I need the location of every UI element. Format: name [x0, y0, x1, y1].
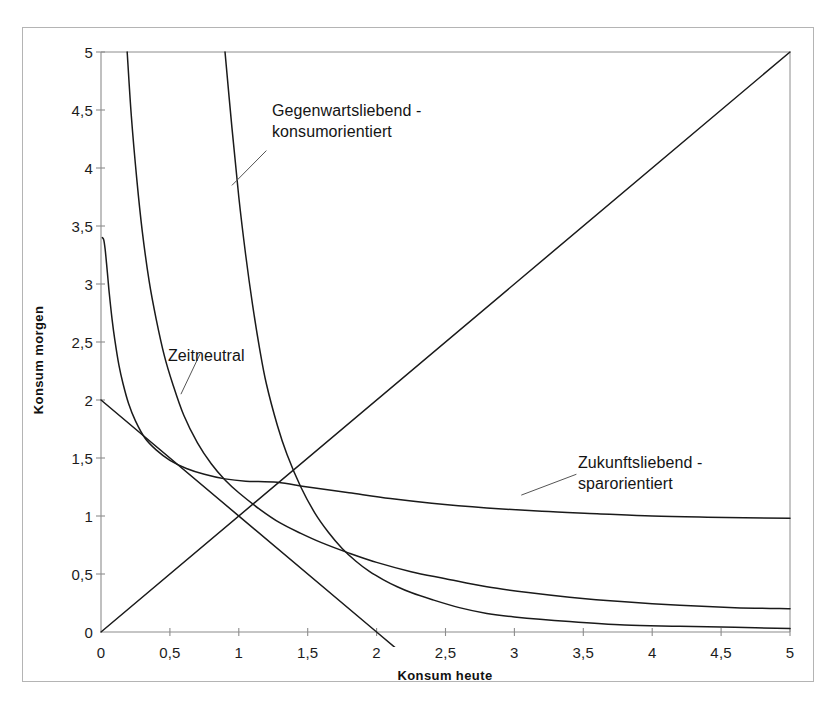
y-tick-label: 4,5: [71, 102, 93, 119]
annotation-zukunftsliebend: Zukunftsliebend - sparorientiert: [578, 452, 702, 494]
y-tick-label: 4: [71, 160, 93, 177]
annotation-gegenwartsliebend-line2: konsumorientiert: [272, 121, 422, 142]
y-tick-label: 2,5: [71, 334, 93, 351]
x-tick-label: 1: [235, 644, 244, 661]
y-tick-label: 1,5: [71, 450, 93, 467]
x-tick-label: 5: [786, 644, 795, 661]
annotation-zeitneutral: Zeitneutral: [168, 345, 245, 366]
y-axis-title: Konsum morgen: [31, 306, 46, 414]
x-tick-label: 1,5: [297, 644, 318, 661]
x-tick-label: 0: [97, 644, 106, 661]
annotation-zukunftsliebend-line2: sparorientiert: [578, 473, 702, 494]
y-tick-label: 2: [71, 392, 93, 409]
x-tick-label: 3: [510, 644, 519, 661]
y-tick-label: 3: [71, 276, 93, 293]
curve-45-degree-ray: [101, 52, 790, 632]
leader-line-zukunftsliebend-sparorientiert: [521, 474, 576, 495]
x-axis-title: Konsum heute: [397, 668, 492, 683]
annotation-gegenwartsliebend-line1: Gegenwartsliebend -: [272, 100, 422, 121]
x-tick-label: 4,5: [710, 644, 731, 661]
y-tick-label: 0,5: [71, 566, 93, 583]
figure-container: Konsum heute Konsum morgen Gegenwartslie…: [0, 0, 840, 727]
figure-caption: [0, 706, 840, 727]
x-tick-label: 3,5: [573, 644, 594, 661]
annotation-zukunftsliebend-line1: Zukunftsliebend -: [578, 452, 702, 473]
y-tick-label: 0: [71, 624, 93, 641]
x-tick-label: 2,5: [435, 644, 456, 661]
annotation-gegenwartsliebend: Gegenwartsliebend - konsumorientiert: [272, 100, 422, 142]
x-tick-label: 4: [648, 644, 657, 661]
annotation-zeitneutral-line1: Zeitneutral: [168, 345, 245, 366]
y-tick-label: 3,5: [71, 218, 93, 235]
y-tick-label: 1: [71, 508, 93, 525]
curve-budget-line: [101, 400, 403, 654]
leader-line-gegenwartsliebend-konsumorientiert: [232, 151, 266, 186]
x-tick-label: 0,5: [159, 644, 180, 661]
x-tick-label: 2: [372, 644, 381, 661]
y-tick-label: 5: [71, 44, 93, 61]
